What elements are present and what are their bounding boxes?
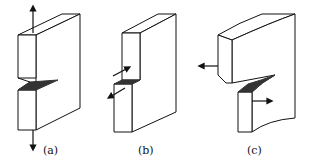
panel-c-block (218, 14, 295, 132)
panel-b-block (114, 14, 176, 132)
panel-label-a: (a) (43, 144, 58, 157)
panel-a-block (18, 14, 80, 130)
fracture-modes-diagram (0, 0, 310, 163)
panel-label-c: (c) (247, 144, 262, 157)
panel-label-b: (b) (138, 144, 154, 157)
